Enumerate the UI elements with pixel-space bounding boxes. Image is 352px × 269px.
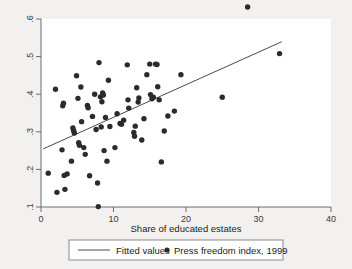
data-point: [277, 51, 282, 56]
data-point: [103, 115, 108, 120]
x-axis-title: Share of educated estates: [131, 223, 242, 234]
data-point: [151, 95, 156, 100]
y-tick-label: .3: [25, 128, 35, 136]
data-point: [92, 92, 97, 97]
data-point: [133, 123, 138, 128]
data-point: [155, 84, 160, 89]
legend-label-press-freedom-index: Press freedom index, 1999: [174, 245, 288, 256]
data-point: [178, 72, 183, 77]
data-point: [144, 72, 149, 77]
data-point: [72, 130, 77, 135]
data-point: [154, 62, 159, 67]
data-point: [139, 137, 144, 142]
data-point: [74, 73, 79, 78]
data-point: [46, 170, 51, 175]
data-point: [101, 92, 106, 97]
data-point: [79, 119, 84, 124]
data-point: [121, 117, 126, 122]
data-point: [69, 158, 74, 163]
chart-figure: .1.2.3.4.5.6 010203040 Share of educated…: [0, 0, 352, 269]
data-point: [125, 97, 130, 102]
data-point: [62, 187, 67, 192]
data-point: [53, 87, 58, 92]
x-tick-label: 40: [326, 214, 336, 224]
data-point: [75, 96, 80, 101]
data-point: [90, 114, 95, 119]
data-point: [141, 116, 146, 121]
data-point: [162, 128, 167, 133]
data-point: [78, 84, 83, 89]
data-point: [93, 127, 98, 132]
data-point: [54, 190, 59, 195]
y-tick-label: .4: [25, 90, 35, 98]
data-point: [59, 147, 64, 152]
data-point: [98, 124, 103, 129]
data-point: [96, 60, 101, 65]
data-point: [106, 78, 111, 83]
data-point: [83, 152, 88, 157]
data-point: [245, 4, 250, 9]
data-point: [147, 61, 152, 66]
data-point: [101, 148, 106, 153]
data-point: [99, 99, 104, 104]
x-tick-label: 10: [108, 214, 118, 224]
plot-area-background: [41, 19, 331, 207]
data-point: [61, 101, 66, 106]
data-point: [126, 105, 131, 110]
data-point: [172, 108, 177, 113]
data-point: [165, 113, 170, 118]
data-point: [107, 124, 112, 129]
y-tick-label: .2: [25, 166, 35, 174]
data-point: [132, 134, 137, 139]
data-point: [112, 145, 117, 150]
legend-dot-swatch: [164, 247, 169, 252]
data-point: [136, 95, 141, 100]
chart-legend: Fitted values Press freedom index, 1999: [69, 240, 288, 260]
legend-label-fitted-values: Fitted values: [116, 245, 170, 256]
x-tick-label: 0: [38, 214, 43, 224]
y-tick-label: .1: [25, 203, 35, 211]
data-point: [104, 158, 109, 163]
data-point: [114, 111, 119, 116]
y-tick-label: .6: [25, 15, 35, 23]
x-tick-label: 30: [253, 214, 263, 224]
data-point: [156, 97, 161, 102]
data-point: [96, 204, 101, 209]
data-point: [85, 105, 90, 110]
data-point: [159, 159, 164, 164]
scatter-chart: .1.2.3.4.5.6 010203040 Share of educated…: [0, 0, 352, 269]
data-point: [81, 145, 86, 150]
data-point: [87, 173, 92, 178]
data-point: [95, 180, 100, 185]
data-point: [134, 85, 139, 90]
data-point: [125, 62, 130, 67]
y-tick-label: .5: [25, 53, 35, 61]
data-point: [64, 171, 69, 176]
data-point: [220, 95, 225, 100]
